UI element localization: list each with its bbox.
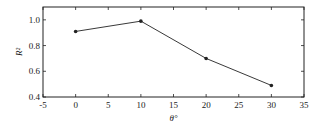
x-tick-label: 15	[169, 100, 179, 110]
y-axis-label: R²	[14, 48, 24, 57]
data-line	[76, 21, 272, 85]
x-tick-label: 10	[136, 100, 146, 110]
x-tick-label: 25	[234, 100, 244, 110]
x-tick-label: 0	[73, 100, 78, 110]
data-point	[204, 57, 208, 61]
data-point	[270, 84, 274, 88]
x-tick-label: 35	[300, 100, 310, 110]
y-tick-label: 0.6	[29, 66, 41, 76]
data-point	[74, 30, 78, 34]
y-tick-label: 0.8	[29, 41, 41, 51]
x-axis-label: θ°	[169, 113, 177, 123]
x-tick-label: 20	[202, 100, 212, 110]
x-tick-label: 30	[267, 100, 277, 110]
x-tick-label: -5	[39, 100, 47, 110]
line-chart: -5051015202530350.40.60.81.0θ°R²	[0, 0, 321, 127]
data-point	[139, 19, 143, 23]
plot-frame	[43, 7, 304, 97]
y-tick-label: 0.4	[29, 92, 41, 102]
y-tick-label: 1.0	[29, 15, 41, 25]
x-tick-label: 5	[106, 100, 111, 110]
